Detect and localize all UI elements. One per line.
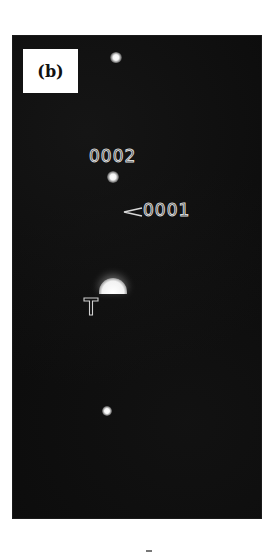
beam-stop-t-icon [83,296,99,316]
panel-label-box: (b) [23,49,78,93]
reflection-0002-label: 0002 [89,146,136,166]
arrow-left-icon [121,206,143,218]
diffraction-pattern-panel: (b) 0002 0001 [13,36,261,518]
lower-reflection-spot [102,406,112,416]
panel-label: (b) [37,62,63,81]
reflection-0002-spot [107,171,119,183]
reflection-0001-label: 0001 [143,200,190,220]
transmitted-beam-spot [99,278,127,294]
upper-reflection-spot [110,52,122,63]
